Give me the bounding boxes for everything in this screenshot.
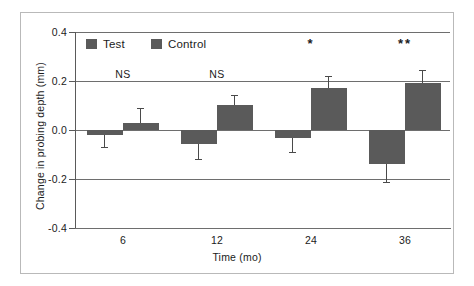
gridline-0.2	[76, 81, 450, 82]
errorbar-test-36	[386, 164, 387, 182]
errorbar-cap-control-12	[231, 95, 238, 96]
errorbar-control-24	[328, 76, 329, 88]
x-tick-label-24: 24	[281, 234, 341, 246]
y-tick-mark-3	[69, 179, 76, 180]
bar-control-6	[123, 123, 159, 130]
errorbar-control-36	[422, 70, 423, 83]
errorbar-cap-test-36	[383, 182, 390, 183]
legend-item-test: Test	[86, 38, 125, 50]
bar-control-12	[217, 105, 253, 130]
errorbar-test-12	[198, 144, 199, 159]
bar-control-24	[311, 88, 347, 130]
legend-label-test: Test	[103, 38, 125, 50]
legend-swatch-icon-test	[86, 39, 97, 49]
bar-test-24	[275, 130, 311, 138]
errorbar-test-6	[104, 135, 105, 147]
legend-item-control: Control	[151, 38, 206, 50]
y-tick-mark-1	[69, 81, 76, 82]
annotation-12: NS	[187, 68, 247, 80]
gridline-0.4	[76, 32, 450, 33]
bar-test-36	[369, 130, 405, 164]
errorbar-control-12	[234, 95, 235, 105]
y-tick-label-4: -0.4	[27, 222, 67, 234]
legend: Test Control	[86, 38, 206, 50]
y-tick-mark-0	[69, 32, 76, 33]
errorbar-cap-test-24	[289, 152, 296, 153]
annotation-24: *	[281, 36, 341, 51]
figure: 0.4 0.2 0.0 -0.2 -0.4 Change in probing …	[0, 0, 474, 286]
y-tick-label-2: 0.0	[27, 124, 67, 136]
annotation-6: NS	[93, 68, 153, 80]
legend-swatch-icon-control	[151, 39, 162, 49]
bar-test-12	[181, 130, 217, 144]
y-tick-label-0: 0.4	[27, 26, 67, 38]
errorbar-control-6	[140, 108, 141, 123]
annotation-36: **	[375, 36, 435, 51]
errorbar-cap-control-36	[419, 70, 426, 71]
x-axis-title: Time (mo)	[0, 251, 474, 263]
errorbar-cap-control-24	[325, 76, 332, 77]
x-tick-label-6: 6	[93, 234, 153, 246]
y-tick-label-1: 0.2	[27, 75, 67, 87]
errorbar-cap-test-6	[101, 147, 108, 148]
plot-area	[76, 32, 450, 228]
legend-label-control: Control	[168, 38, 206, 50]
x-tick-label-12: 12	[187, 234, 247, 246]
gridline--0.2	[76, 179, 450, 180]
errorbar-cap-control-6	[137, 108, 144, 109]
y-axis-title: Change in probing depth (mm)	[34, 36, 46, 236]
bar-test-6	[87, 130, 123, 135]
x-axis-spine	[75, 228, 451, 229]
errorbar-test-24	[292, 138, 293, 152]
y-tick-mark-2	[69, 130, 76, 131]
errorbar-cap-test-12	[195, 159, 202, 160]
x-tick-label-36: 36	[375, 234, 435, 246]
bar-control-36	[405, 83, 441, 130]
y-tick-label-3: -0.2	[27, 173, 67, 185]
